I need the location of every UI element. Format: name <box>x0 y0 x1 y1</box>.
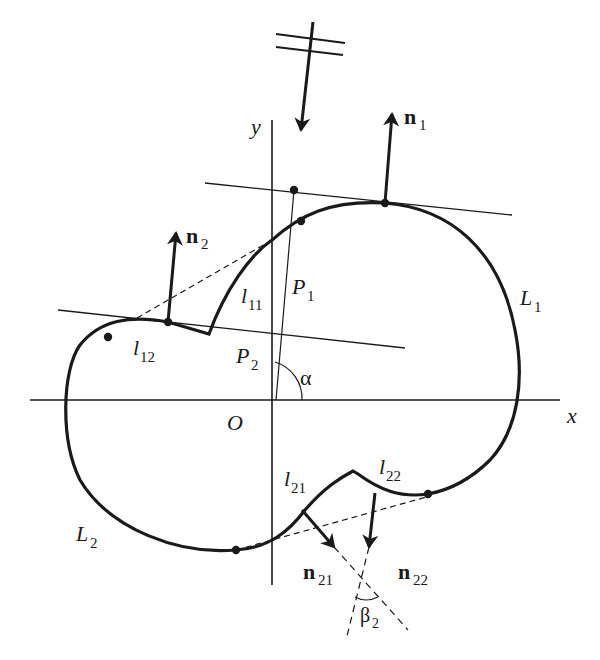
n21-subscript: 21 <box>318 572 333 588</box>
point-l12-junction <box>104 333 112 341</box>
alpha-label: α <box>300 365 312 390</box>
n21-extension <box>334 547 408 630</box>
l12-subscript: 12 <box>140 349 155 365</box>
beta-arc <box>355 597 378 600</box>
l12-label: l <box>133 335 139 360</box>
y-axis-label: y <box>249 114 261 139</box>
origin-label: O <box>227 410 243 435</box>
n21-label: n <box>303 559 315 584</box>
normal-n1-arrow <box>385 114 392 203</box>
l22-label: l <box>379 454 385 479</box>
n22-label: n <box>398 559 410 584</box>
contour-L <box>66 203 520 551</box>
n2-subscript: 2 <box>201 236 209 252</box>
beta-subscript: 2 <box>372 616 379 631</box>
L1-label: L <box>519 285 532 310</box>
P1-label: P <box>291 274 305 299</box>
point-l11-junction <box>297 217 305 225</box>
l22-subscript: 22 <box>386 468 401 484</box>
l11-subscript: 11 <box>248 297 262 313</box>
P2-label: P <box>235 343 249 368</box>
n2-label: n <box>186 223 198 248</box>
n22-extension <box>346 547 369 640</box>
n1-subscript: 1 <box>419 117 427 133</box>
normal-n21-arrow <box>302 510 334 547</box>
L1-subscript: 1 <box>534 299 542 315</box>
n22-subscript: 22 <box>413 572 428 588</box>
point-l22-junction <box>424 490 432 498</box>
diagram-canvas: y x O n 1 n 2 n 21 n 22 L 1 L 2 P 1 P 2 … <box>0 0 600 660</box>
P2-subscript: 2 <box>251 357 259 373</box>
tangent-line-lower <box>58 310 405 348</box>
normal-n22-arrow <box>369 493 375 547</box>
n1-label: n <box>404 104 416 129</box>
tangent-line-upper <box>205 183 512 215</box>
L2-subscript: 2 <box>90 535 98 551</box>
L2-label: L <box>75 521 88 546</box>
l11-label: l <box>241 283 247 308</box>
l21-subscript: 21 <box>291 480 306 496</box>
point-upper-tangent <box>290 186 298 194</box>
diagram-svg: y x O n 1 n 2 n 21 n 22 L 1 L 2 P 1 P 2 … <box>0 0 600 660</box>
l21-label: l <box>284 466 290 491</box>
x-axis-label: x <box>566 403 577 428</box>
point-L2-junction <box>232 546 240 554</box>
normal-n2-arrow <box>168 233 176 322</box>
beta-label: β <box>360 604 370 627</box>
P1-subscript: 1 <box>307 288 315 304</box>
